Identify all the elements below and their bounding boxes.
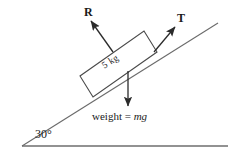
weight-label-text: weight =: [92, 110, 134, 122]
normal-force-arrow: [91, 21, 113, 52]
normal-force-label: R: [84, 6, 93, 18]
incline-angle-label: 30°: [35, 128, 52, 140]
weight-label-symbol: mg: [134, 110, 147, 122]
inclined-plane-diagram: R T 5 kg weight = mg 30°: [0, 0, 239, 156]
tension-force-label: T: [177, 12, 185, 24]
weight-label: weight = mg: [92, 111, 147, 122]
tension-force-arrow: [154, 27, 175, 52]
block-shape: [80, 31, 157, 97]
